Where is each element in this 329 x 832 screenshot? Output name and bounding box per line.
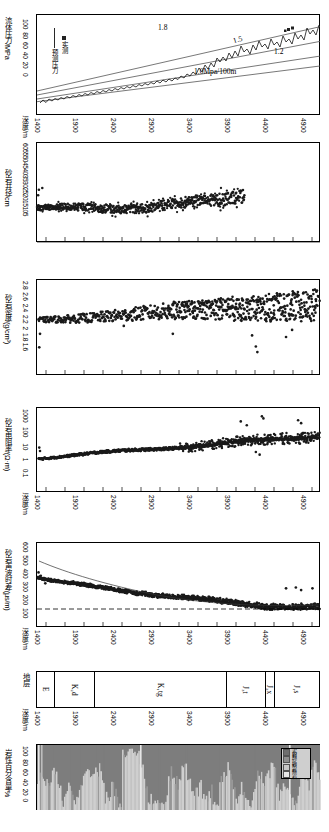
data-point [116, 316, 119, 319]
data-point [152, 199, 154, 201]
data-point [262, 308, 265, 311]
lithology-bar-upper [183, 745, 185, 767]
ytick-label: 400 [22, 568, 29, 578]
data-point [146, 201, 148, 203]
data-point [37, 571, 40, 574]
data-point [130, 315, 133, 318]
data-point [80, 205, 83, 208]
panel-fluid-pressure: 流体压力/MPa 100 80 60 40 20 0 [0, 0, 329, 140]
data-point [246, 310, 249, 313]
data-point [169, 203, 172, 206]
data-point [134, 306, 137, 309]
lithology-bar [98, 777, 100, 810]
data-point [149, 304, 152, 307]
data-point [251, 442, 253, 444]
data-point [285, 317, 288, 320]
data-point [225, 313, 228, 316]
data-point [305, 301, 308, 304]
lithology-bar [154, 800, 156, 810]
lithology-bar [213, 804, 215, 810]
data-point [241, 201, 244, 204]
data-point [317, 434, 320, 437]
lithology-bar [268, 770, 270, 810]
data-point [184, 196, 187, 199]
data-point [316, 304, 319, 307]
lithology-bar [80, 785, 82, 810]
lithology-bar [148, 802, 150, 810]
data-point [290, 298, 293, 301]
lithology-bar-upper [95, 745, 97, 767]
lithology-bar [76, 797, 78, 810]
data-point [250, 316, 253, 319]
lithology-bar [92, 774, 94, 810]
data-point [213, 448, 215, 450]
data-point [125, 211, 128, 214]
lithology-bar [198, 796, 200, 810]
lithology-bar [306, 775, 308, 810]
data-point [239, 196, 242, 199]
data-point [260, 317, 263, 320]
data-point [237, 317, 240, 320]
ytick-label: 5 [22, 213, 29, 216]
axis-label-sandstone-density: 砂岩密度/(g/cm³) [4, 293, 11, 398]
data-point [92, 207, 95, 210]
ytick-label: 20 [22, 789, 29, 796]
data-point [38, 446, 41, 449]
data-point [204, 195, 207, 198]
lithology-bar [175, 784, 177, 810]
ytick-sandstone-caliper: 60555045403530252015105 [21, 143, 28, 271]
data-point [216, 314, 219, 317]
data-point [241, 304, 244, 307]
lithology-bar [79, 790, 81, 810]
lithology-bar [192, 791, 194, 810]
data-point [273, 309, 276, 312]
plot-sandstone-density [36, 279, 320, 375]
ytick-label: 0 [22, 798, 29, 801]
data-point [41, 187, 44, 190]
lithology-bar [63, 807, 65, 810]
lithology-bar [171, 766, 173, 810]
data-point [178, 301, 181, 304]
data-point [193, 301, 196, 304]
data-point [64, 321, 67, 324]
lithology-bar [244, 792, 246, 810]
data-point [108, 319, 111, 322]
data-point [77, 207, 80, 210]
data-point [185, 315, 188, 318]
lithology-bar [250, 807, 252, 810]
data-point [169, 197, 171, 199]
data-point [166, 207, 168, 209]
data-point [305, 291, 308, 294]
lithology-bar [318, 772, 320, 810]
axis-label-sandstone-resistivity: 砂岩电阻率/(Ω·m) [4, 417, 11, 522]
lithology-bar [99, 763, 101, 810]
data-point [205, 314, 208, 317]
data-point [159, 311, 162, 314]
data-point [144, 208, 147, 211]
data-point [255, 316, 258, 319]
data-point [111, 215, 113, 217]
lithology-bar [204, 799, 206, 810]
lithology-bar [235, 799, 237, 810]
stratigraphy-unit-label: K₁tg [156, 683, 165, 697]
data-point [204, 311, 207, 314]
data-point [234, 445, 236, 447]
data-point [176, 211, 178, 213]
lithology-bar [254, 789, 256, 810]
data-point [221, 304, 224, 307]
lithology-bar [240, 794, 242, 810]
data-point [310, 301, 313, 304]
lithology-bar [308, 790, 310, 810]
data-point [256, 433, 258, 435]
data-point [194, 206, 196, 208]
data-point [288, 442, 290, 444]
plot-svg-sandstone-caliper [37, 143, 320, 242]
data-point [159, 210, 161, 212]
lithology-bar [311, 770, 313, 810]
data-point [109, 311, 112, 314]
annotation-1-2: 1.2 [274, 47, 283, 56]
data-point [64, 203, 67, 206]
lithology-bar [183, 767, 185, 810]
lithology-bar [122, 750, 124, 810]
lithology-bar [105, 804, 107, 811]
